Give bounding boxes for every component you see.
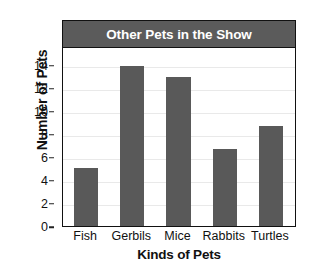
y-tick-mark [49, 157, 54, 159]
y-tick-mark [49, 111, 54, 113]
x-tick-label: Mice [164, 229, 190, 243]
bar [166, 77, 190, 226]
bar-series [63, 50, 295, 227]
chart-title-banner: Other Pets in the Show [63, 21, 295, 48]
y-tick-label: 4 [41, 174, 48, 188]
x-axis-title: Kinds of Pets [62, 247, 296, 262]
y-tick-mark [49, 226, 54, 228]
x-tick-label: Turtles [251, 229, 289, 243]
x-axis-tick-labels: FishGerbilsMiceRabbitsTurtles [62, 229, 296, 247]
y-tick-label: 0 [41, 220, 48, 234]
y-axis-tick-labels: 02468101214 [30, 20, 54, 227]
x-tick-label: Rabbits [202, 229, 244, 243]
bar-chart-figure: Number of Pets 02468101214 Other Pets in… [0, 0, 317, 270]
chart-frame: Other Pets in the Show [62, 20, 296, 227]
y-tick-mark [49, 180, 54, 182]
x-tick-label: Fish [73, 229, 97, 243]
y-tick-label: 12 [34, 82, 48, 96]
y-tick-mark [49, 65, 54, 67]
y-tick-label: 2 [41, 197, 48, 211]
x-tick-label: Gerbils [112, 229, 152, 243]
bar [259, 126, 283, 226]
y-tick-label: 14 [34, 59, 48, 73]
y-tick-label: 6 [41, 151, 48, 165]
y-tick-label: 8 [41, 128, 48, 142]
y-tick-label: 10 [34, 105, 48, 119]
y-tick-mark [49, 88, 54, 90]
plot-area [63, 50, 295, 227]
y-tick-mark [49, 134, 54, 136]
bar [74, 168, 98, 226]
bar [213, 149, 237, 226]
chart-title: Other Pets in the Show [106, 27, 252, 42]
bar [120, 66, 144, 226]
y-tick-mark [49, 203, 54, 205]
